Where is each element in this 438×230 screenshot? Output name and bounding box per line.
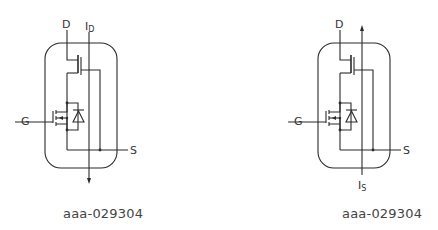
drain-label: D [62, 19, 70, 30]
drain-label: D [335, 19, 343, 30]
mosfet-arrow [59, 116, 63, 120]
current-arrow-up-icon [360, 25, 364, 31]
current-label: IS [358, 180, 366, 193]
circuit-diagram-left: D ID G S aaa-029304 [0, 0, 219, 230]
junction-dot [99, 149, 102, 152]
drain-lead [340, 30, 351, 60]
junction-dot [372, 149, 375, 152]
diagram-caption: aaa-029304 [63, 206, 143, 221]
gate-label: G [294, 116, 303, 127]
drain-lead [67, 30, 78, 60]
cascode-circuit-left [0, 0, 219, 230]
current-label: ID [85, 21, 94, 34]
gate-label: G [21, 116, 30, 127]
mosfet-arrow [332, 116, 336, 120]
source-label: S [130, 145, 137, 156]
diagram-caption: aaa-029304 [342, 206, 422, 221]
source-label: S [403, 145, 410, 156]
cascode-circuit-right [219, 0, 438, 230]
current-arrow-down-icon [87, 178, 91, 184]
circuit-diagram-right: D G S IS aaa-029304 [219, 0, 438, 230]
